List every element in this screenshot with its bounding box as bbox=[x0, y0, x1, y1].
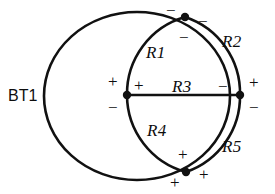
component-label-r1: R1 bbox=[146, 44, 165, 61]
polarity-mark-top-below: − bbox=[179, 29, 189, 46]
node-top-dot bbox=[181, 13, 189, 21]
polarity-mark-bottom-below: + bbox=[170, 174, 180, 191]
polarity-mark-top-left: − bbox=[166, 2, 176, 19]
component-label-r3: R3 bbox=[172, 78, 191, 95]
polarity-mark-bottom-above: + bbox=[178, 146, 188, 163]
polarity-mark-right-left: − bbox=[218, 78, 228, 95]
polarity-mark-right-lower-right: − bbox=[249, 99, 259, 116]
component-label-bt1: BT1 bbox=[8, 88, 37, 104]
polarity-mark-right-upper-right: + bbox=[249, 74, 259, 91]
polarity-mark-left-lower-left: − bbox=[108, 99, 118, 116]
node-bottom-dot bbox=[182, 168, 190, 176]
component-label-r2: R2 bbox=[222, 33, 241, 50]
polarity-mark-left-upper-left: + bbox=[108, 73, 118, 90]
r5-arc bbox=[186, 95, 240, 172]
circuit-diagram-canvas: BT1 R1 R2 R3 R4 R5 − − − + + − − + − + +… bbox=[0, 0, 275, 194]
polarity-mark-top-right: − bbox=[198, 13, 208, 30]
node-right-dot bbox=[236, 91, 244, 99]
schematic-drawing bbox=[0, 0, 275, 194]
component-label-r4: R4 bbox=[147, 122, 166, 139]
polarity-mark-bottom-right: + bbox=[199, 166, 209, 183]
component-label-r5: R5 bbox=[222, 138, 241, 155]
node-left-dot bbox=[123, 91, 131, 99]
polarity-mark-left-upper-right: + bbox=[134, 77, 144, 94]
